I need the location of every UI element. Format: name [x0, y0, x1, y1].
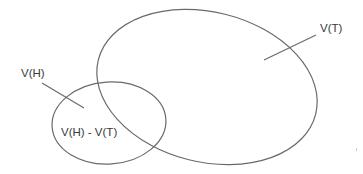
- set-vh-ellipse: [49, 78, 168, 168]
- difference-region-label: V(H) - V(T): [61, 126, 117, 138]
- vt-leader-line: [264, 35, 316, 60]
- speck-mark: [356, 148, 357, 151]
- vt-label: V(T): [320, 22, 343, 34]
- vh-leader-line: [42, 83, 84, 108]
- vh-label: V(H): [21, 67, 45, 79]
- venn-diagram: V(T) V(H) V(H) - V(T): [0, 0, 363, 174]
- set-vt-ellipse: [80, 0, 334, 174]
